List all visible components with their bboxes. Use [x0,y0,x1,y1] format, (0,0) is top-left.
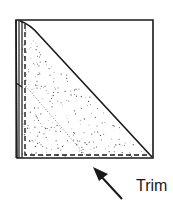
stipple-dot [36,85,37,86]
stipple-dot [89,125,90,126]
stipple-dot [74,90,75,91]
stipple-dot [48,120,49,121]
stipple-dot [101,139,102,140]
stipple-dot [66,100,67,101]
stipple-dot [40,44,41,45]
stipple-dot [89,142,90,143]
stipple-dot [79,141,80,142]
stipple-dot [26,74,27,75]
stipple-dot [114,146,115,147]
stipple-dot [37,135,38,136]
stipple-dot [81,108,82,109]
stipple-dot [75,89,76,90]
stipple-dot [81,124,82,125]
stipple-dot [30,132,31,133]
stipple-dot [90,153,91,154]
stipple-dot [37,117,38,118]
stipple-dot [55,131,56,132]
stipple-dot [55,88,56,89]
stipple-dot [40,54,41,55]
stipple-dot [34,127,35,128]
stipple-dot [119,144,120,145]
stipple-dot [141,151,142,152]
trim-arrow [93,167,122,199]
stipple-dot [52,95,53,96]
stipple-dot [89,96,90,97]
stipple-dot [35,114,36,115]
stipple-dot [57,144,58,145]
stipple-dot [39,73,40,74]
stipple-dot [30,47,31,48]
stipple-dot [73,132,74,133]
stipple-dot [66,75,67,76]
stipple-dot [57,92,58,93]
stipple-dot [119,127,120,128]
stipple-dot [37,74,38,75]
stipple-dot [49,130,50,131]
stipple-dot [33,41,34,42]
stipple-dot [66,78,67,79]
stipple-dot [31,153,32,154]
stipple-dot [62,146,63,147]
stipple-dot [34,107,35,108]
stipple-dot [32,140,33,141]
stipple-dot [40,62,41,63]
stipple-dot [73,134,74,135]
shaded-triangle [21,30,144,157]
stipple-dot [36,43,37,44]
stipple-dot [97,125,98,126]
stipple-dot [90,104,91,105]
stipple-dot [37,46,38,47]
stipple-dot [28,84,29,85]
stipple-dot [24,126,25,127]
stipple-dot [51,106,52,107]
stipple-dot [35,84,36,85]
stipple-dot [96,146,97,147]
stipple-dot [40,123,41,124]
stipple-dot [54,127,55,128]
stipple-dot [53,95,54,96]
stipple-dot [37,56,38,57]
stipple-dot [51,98,52,99]
stipple-dot [31,43,32,44]
stipple-dot [54,72,55,73]
stipple-dot [115,145,116,146]
stipple-dot [42,98,43,99]
stipple-dot [35,140,36,141]
stipple-dot [36,88,37,89]
stipple-dot [49,75,50,76]
stipple-dot [37,63,38,64]
stipple-dot [32,89,33,90]
stipple-dot [74,94,75,95]
stipple-dot [115,144,116,145]
stipple-dot [46,137,47,138]
stipple-dot [45,61,46,62]
stipple-dot [34,88,35,89]
stipple-dot [27,125,28,126]
stipple-dot [39,52,40,53]
stipple-dot [54,78,55,79]
stipple-dot [76,144,77,145]
stipple-dot [52,122,53,123]
stipple-dot [35,146,36,147]
stipple-dot [29,49,30,50]
stipple-dot [77,140,78,141]
stipple-dot [74,110,75,111]
stipple-dot [44,127,45,128]
stipple-dot [42,113,43,114]
stipple-dot [27,33,28,34]
stipple-dot [79,151,80,152]
stipple-dot [52,103,53,104]
stipple-dot [34,64,35,65]
stipple-dot [35,49,36,50]
stipple-dot [49,68,50,69]
stipple-dot [144,153,145,154]
stipple-dot [86,144,87,145]
stipple-dot [56,140,57,141]
stipple-dot [130,153,131,154]
square-outline [16,20,153,158]
stipple-dot [103,134,104,135]
stipple-dot [100,135,101,136]
stipple-dot [39,132,40,133]
stipple-dot [51,127,52,128]
